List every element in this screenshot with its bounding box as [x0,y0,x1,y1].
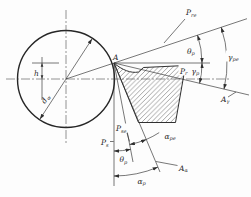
label-theta-p-bottom: θp [120,155,129,166]
theta-p-arc-top [198,35,203,63]
alpha-pe-arc [130,140,147,145]
label-alpha-pe: αpe [165,132,176,143]
h-arrow-up [41,63,44,67]
p-se-leader [127,133,130,142]
alpha-p-arc [114,167,158,176]
tool-body [114,63,186,123]
label-a-gamma: Aγ [220,95,229,106]
label-p-re: Pre [185,8,196,18]
theta-p-arc-bottom [114,149,131,151]
label-a-alpha: Aα [178,164,188,174]
h-arrow-down [41,75,44,79]
label-alpha-p: αp [138,177,147,188]
a-alpha-leader [156,162,178,166]
p-re-leader [164,19,185,43]
a-gamma-leader [228,92,236,97]
label-point-a: A [112,53,119,62]
label-h: h [34,69,39,78]
diagram-canvas: A h dw Pre θp γpe Pr γp Aγ Pse Ps αpe θp… [0,0,251,197]
alpha-pe-arc-tail [146,133,159,140]
label-theta-p-top: θp [187,47,196,58]
tool-angle-diagram: A h dw Pre θp γpe Pr γp Aγ Pse Ps αpe θp… [0,0,251,197]
h-dimension [41,57,44,100]
label-p-s: Ps [100,138,109,148]
